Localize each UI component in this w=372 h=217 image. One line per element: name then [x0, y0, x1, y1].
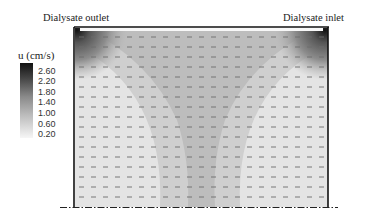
colorbar-tick: 0.20 — [38, 129, 56, 139]
colorbar-tick: 1.40 — [38, 97, 56, 107]
velocity-vectors — [78, 32, 326, 205]
velocity-contour-plot — [0, 0, 372, 217]
colorbar — [20, 63, 33, 138]
colorbar-tick: 1.00 — [38, 108, 56, 118]
colorbar-tick: 2.20 — [38, 76, 56, 86]
colorbar-title: u (cm/s) — [18, 49, 54, 61]
dialysate-outlet-label: Dialysate outlet — [43, 12, 109, 23]
dialysate-inlet-label: Dialysate inlet — [283, 12, 344, 23]
colorbar-tick: 2.60 — [38, 66, 56, 76]
colorbar-tick: 0.60 — [38, 119, 56, 129]
colorbar-tick: 1.80 — [38, 87, 56, 97]
